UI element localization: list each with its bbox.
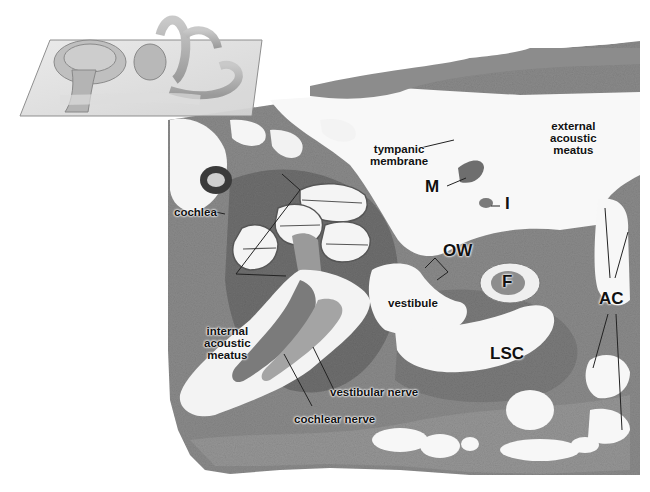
- label-vestibular-nerve: vestibular nerve: [330, 386, 418, 398]
- label-cochlear-nerve: cochlear nerve: [294, 413, 375, 425]
- label-lsc: LSC: [490, 345, 524, 363]
- label-tympanic-membrane: tympanic membrane: [370, 143, 428, 167]
- label-malleus: M: [425, 178, 439, 196]
- label-cochlea: cochlea: [174, 206, 217, 218]
- label-facial-nerve: F: [502, 273, 512, 291]
- histology-figure: tympanic membrane external acoustic meat…: [0, 0, 650, 492]
- label-oval-window: OW: [443, 242, 472, 260]
- label-vestibule: vestibule: [388, 297, 438, 309]
- label-external-acoustic-meatus: external acoustic meatus: [550, 120, 597, 156]
- label-air-cells: AC: [599, 290, 624, 308]
- label-incus: I: [505, 195, 510, 213]
- label-internal-acoustic-meatus: internal acoustic meatus: [204, 325, 251, 361]
- incus: [479, 198, 493, 208]
